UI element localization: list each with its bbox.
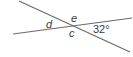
intersecting-lines-diagram: d e c 32° [0, 0, 133, 57]
angle-label-32-degrees: 32° [93, 23, 110, 35]
angle-label-c: c [69, 27, 75, 39]
angle-label-e: e [71, 12, 77, 24]
angle-label-d: d [46, 18, 53, 30]
line-1 [19, 1, 130, 52]
